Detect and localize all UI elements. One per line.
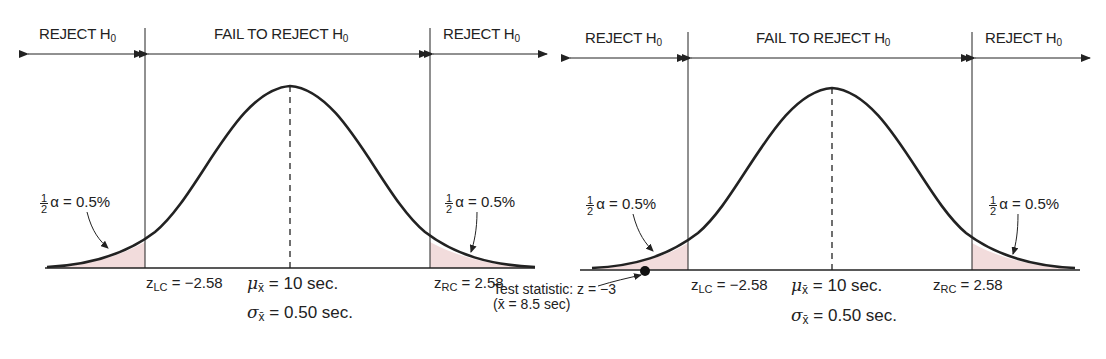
region-label-reject-left: REJECT H0: [585, 29, 662, 48]
region-label-reject-right: REJECT H0: [985, 29, 1062, 48]
mean-label: μx̄ = 10 sec.: [791, 275, 882, 297]
std-error-label: σx̄ = 0.50 sec.: [247, 302, 353, 324]
mean-label: μx̄ = 10 sec.: [247, 273, 338, 295]
critical-value-left: zLC = −2.58: [146, 274, 223, 293]
std-error-label: σx̄ = 0.50 sec.: [791, 305, 897, 327]
tail-annotation-right: 12α = 0.5%: [445, 193, 515, 214]
tail-annotation-left: 12α = 0.5%: [40, 193, 110, 214]
bell-curve: [592, 88, 1075, 268]
region-label-fail-to-reject: FAIL TO REJECT H0: [756, 29, 890, 48]
region-label-fail-to-reject: FAIL TO REJECT H0: [214, 25, 348, 44]
region-label-reject-left: REJECT H0: [39, 25, 116, 44]
test-statistic-point: [640, 266, 650, 276]
critical-value-right: zRC = 2.58: [933, 276, 1003, 295]
right-panel: [570, 32, 1090, 286]
left-panel: [28, 28, 547, 268]
test-statistic-line2: (x̄ = 8.5 sec): [493, 297, 616, 312]
tail-annotation-left: 12α = 0.5%: [586, 195, 656, 216]
test-statistic-line1: Test statistic: z = −3: [493, 282, 616, 297]
bell-curve: [47, 86, 535, 267]
tail-annotation-right: 12α = 0.5%: [989, 195, 1059, 216]
test-statistic-label: Test statistic: z = −3 (x̄ = 8.5 sec): [493, 282, 616, 312]
region-label-reject-right: REJECT H0: [443, 25, 520, 44]
critical-value-left: zLC = −2.58: [691, 276, 768, 295]
